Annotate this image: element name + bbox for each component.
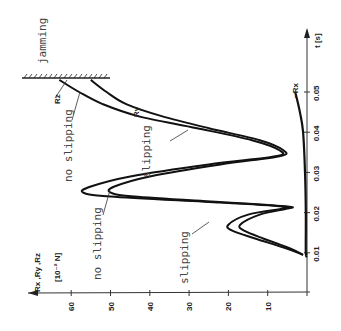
- no-slipping-bottom-label: no slipping: [91, 207, 104, 280]
- no-slipping-bottom-pointer: [103, 190, 110, 215]
- rx-label: −Rx: [291, 83, 300, 98]
- force-tick-label: 20: [224, 302, 233, 311]
- time-tick-label: 0.02: [312, 205, 321, 221]
- force-tick-label: 30: [185, 302, 194, 311]
- slipping-top-label: slipping: [140, 125, 153, 178]
- time-tick-label: 0.01: [312, 246, 321, 262]
- jamming-label: jamming: [36, 18, 49, 64]
- series-neg-rx-line: [295, 92, 307, 256]
- slipping-bottom-pointer: [192, 222, 209, 234]
- y-axis-label-line2: [10⁻² N]: [53, 253, 62, 282]
- y-axis-label-line1: Rx ,Ry ,Rz: [33, 253, 42, 292]
- jamming-wall-icon: [22, 74, 110, 78]
- force-tick-label: 10: [264, 302, 273, 311]
- time-tick-label: 0.03: [312, 165, 321, 181]
- force-tick-label: 40: [146, 302, 155, 311]
- time-tick-label: 0.04: [312, 125, 321, 141]
- series-ry-line: [91, 80, 303, 255]
- force-time-chart: 102030405060 0.010.020.030.040.05 jammin…: [0, 0, 341, 331]
- force-tick-label: 50: [107, 302, 116, 311]
- ry-label: Ry: [132, 106, 141, 117]
- time-axis-arrow-icon: [304, 28, 310, 38]
- rz-label: Rz: [53, 94, 62, 104]
- slipping-bottom-label: slipping: [178, 231, 191, 284]
- t-axis-label: t [s]: [313, 33, 322, 48]
- time-tick-label: 0.05: [312, 85, 321, 101]
- no-slipping-top-label: no slipping: [62, 109, 75, 182]
- force-tick-label: 60: [67, 302, 76, 311]
- slipping-top-pointer: [170, 130, 188, 141]
